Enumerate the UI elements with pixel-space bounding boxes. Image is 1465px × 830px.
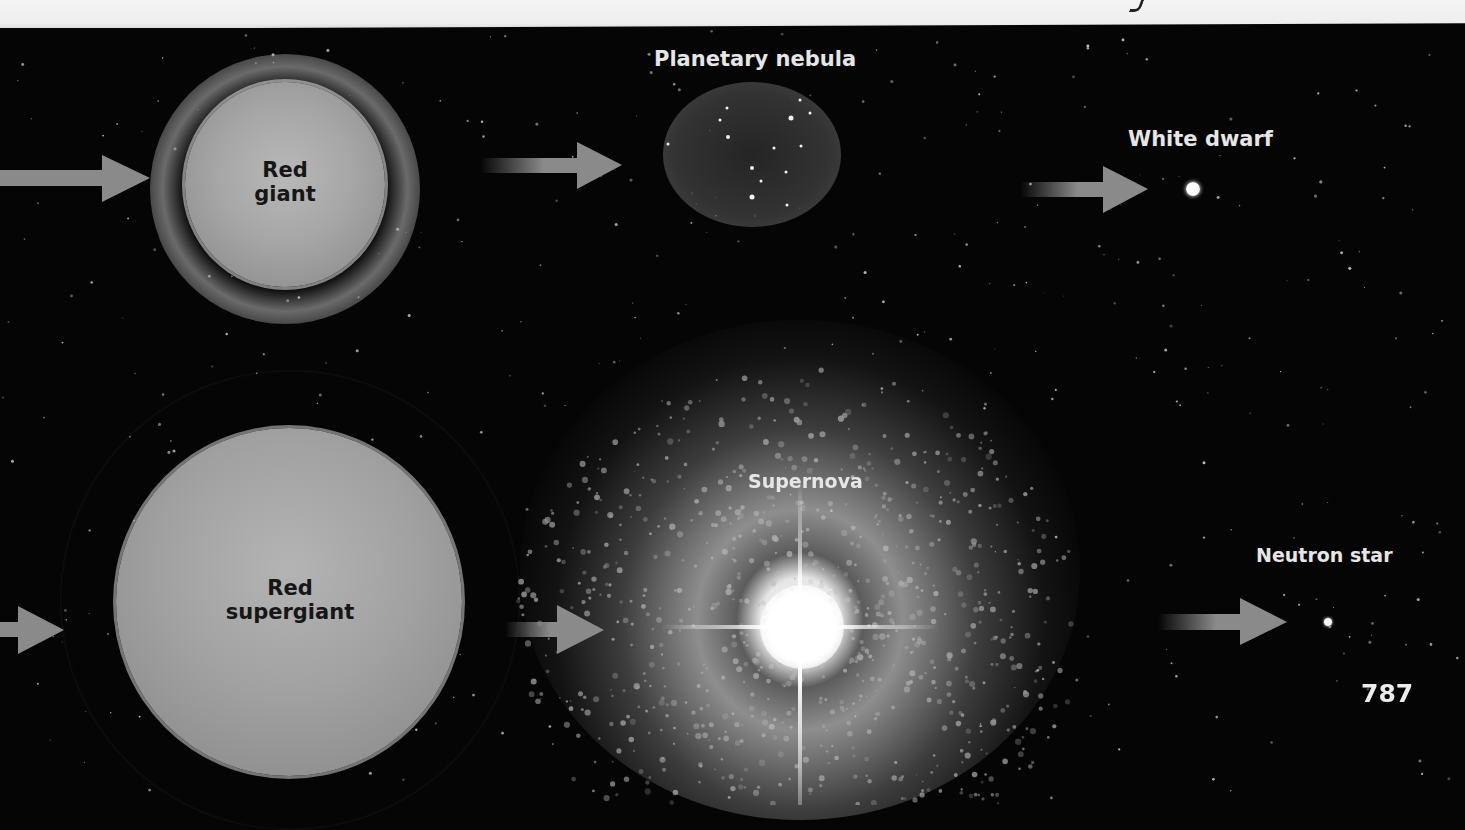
- arrow-icon: [0, 606, 64, 654]
- arrow-icon: [1158, 598, 1287, 645]
- arrow-icon: [480, 142, 622, 189]
- arrow-icon: [1020, 166, 1148, 213]
- arrow-icon: [505, 605, 604, 654]
- arrow-icon: [0, 155, 150, 202]
- page-number: 787: [1361, 679, 1413, 708]
